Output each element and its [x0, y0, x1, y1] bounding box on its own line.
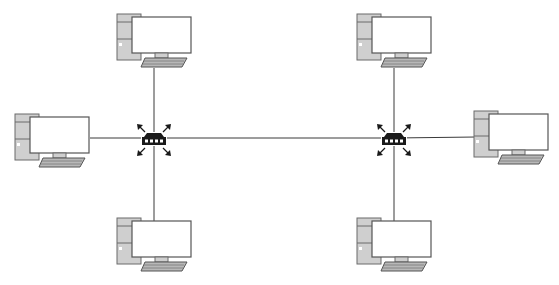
network-diagram [0, 0, 559, 285]
computer-top-right[interactable] [357, 14, 431, 67]
desktop-computer-icon [474, 111, 548, 164]
desktop-computer-icon [15, 114, 89, 167]
desktop-computer-icon [117, 218, 191, 271]
computer-right[interactable] [474, 111, 548, 164]
computer-bottom-left[interactable] [117, 218, 191, 271]
computer-left[interactable] [15, 114, 89, 167]
desktop-computer-icon [117, 14, 191, 67]
computer-bottom-right[interactable] [357, 218, 431, 271]
computer-top-left[interactable] [117, 14, 191, 67]
desktop-computer-icon [357, 218, 431, 271]
desktop-computer-icon [357, 14, 431, 67]
